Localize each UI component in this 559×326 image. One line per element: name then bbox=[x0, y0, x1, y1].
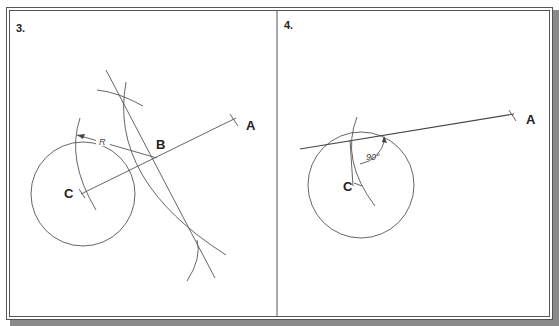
arc-lower-cross bbox=[187, 240, 198, 281]
arc-upper-cross bbox=[97, 90, 143, 106]
arc-from-a bbox=[124, 82, 226, 255]
radius-label: R bbox=[99, 137, 106, 147]
line-ca bbox=[81, 118, 236, 194]
panel-4: 4. 90° A C bbox=[284, 19, 536, 238]
point-a-label: A bbox=[526, 112, 536, 127]
circle-c bbox=[308, 132, 414, 238]
construction-diagram: 3. R A B C 4. bbox=[0, 0, 559, 326]
point-b-label: B bbox=[156, 137, 165, 152]
tangent-line bbox=[300, 114, 514, 149]
angle-label: 90° bbox=[366, 152, 380, 162]
panel-4-label: 4. bbox=[284, 19, 293, 31]
tick-c bbox=[79, 189, 85, 198]
panel-3-label: 3. bbox=[16, 22, 25, 34]
point-a-label: A bbox=[246, 118, 256, 133]
point-c-label: C bbox=[343, 179, 353, 194]
circle-c bbox=[31, 142, 135, 246]
arc-r-from-c bbox=[76, 118, 96, 210]
panel-3: 3. R A B C bbox=[16, 22, 256, 281]
radius-arrow-icon bbox=[77, 134, 85, 139]
point-c-label: C bbox=[64, 186, 74, 201]
tick-a bbox=[509, 110, 516, 121]
